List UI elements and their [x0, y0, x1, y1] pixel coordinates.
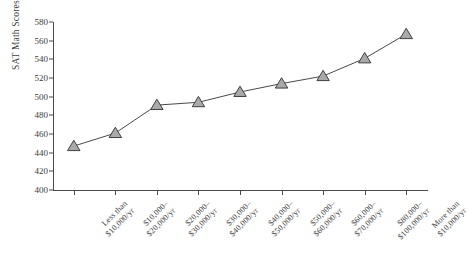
y-axis-title: SAT Math Scores: [11, 0, 25, 70]
y-tick-mark: [49, 59, 53, 60]
y-tick-mark: [49, 96, 53, 97]
y-tick-mark: [49, 152, 53, 153]
y-tick-mark: [49, 134, 53, 135]
y-tick-label: 540: [35, 54, 49, 64]
y-tick-mark: [49, 22, 53, 23]
y-tick-mark: [49, 40, 53, 41]
y-tick-label: 460: [35, 129, 49, 139]
x-tick-label: Less than$10,000/yr: [97, 199, 137, 239]
x-tick-label: $60,000–$70,000/yr: [346, 199, 386, 239]
y-tick-label: 420: [35, 166, 49, 176]
x-tick-mark: [406, 190, 407, 195]
y-tick-label: 440: [35, 148, 49, 158]
x-tick-label: $40,000–$50,000/yr: [263, 199, 303, 239]
x-tick-mark: [365, 190, 366, 195]
x-tick-label: More than$10,000/yr: [429, 199, 469, 239]
y-tick-label: 560: [35, 36, 49, 46]
y-tick-mark: [49, 78, 53, 79]
y-tick-label: 500: [35, 92, 49, 102]
y-tick-label: 400: [35, 185, 49, 195]
x-tick-mark: [198, 190, 199, 195]
x-tick-mark: [323, 190, 324, 195]
x-tick-label: $20,000–$30,000/yr: [180, 199, 220, 239]
y-tick-mark: [49, 115, 53, 116]
y-tick-label: 580: [35, 17, 49, 27]
y-tick-mark: [49, 190, 53, 191]
x-tick-label: $80,000–$100,000/yr: [389, 199, 431, 241]
x-tick-mark: [240, 190, 241, 195]
y-tick-mark: [49, 171, 53, 172]
plot-area: 400420440460480500520540560580: [53, 22, 427, 190]
x-tick-mark: [157, 190, 158, 195]
x-tick-label: $10,000–$20,000/yr: [138, 199, 178, 239]
x-tick-mark: [282, 190, 283, 195]
x-tick-label: $30,000–$40,000/yr: [221, 199, 261, 239]
y-tick-label: 520: [35, 73, 49, 83]
x-tick-mark: [115, 190, 116, 195]
y-tick-label: 480: [35, 110, 49, 120]
x-tick-mark: [74, 190, 75, 195]
x-tick-label: $50,000–$60,000/yr: [304, 199, 344, 239]
